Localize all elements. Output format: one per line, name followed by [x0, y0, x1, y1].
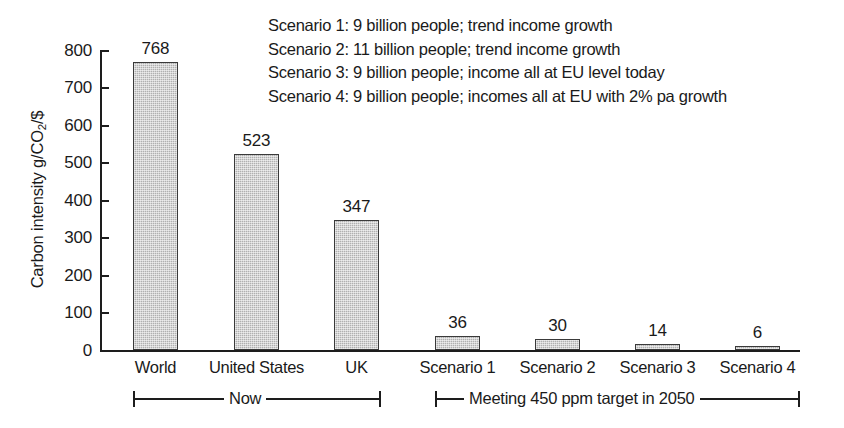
- group-label-now: Now: [224, 387, 266, 409]
- y-tick-label-500: 500: [48, 154, 92, 171]
- y-tick-label-400: 400: [48, 192, 92, 209]
- bar-uk: [334, 220, 379, 350]
- x-axis-line: [100, 350, 800, 352]
- category-label-scenario-2: Scenario 2: [502, 358, 613, 376]
- bar-scenario-2: [535, 339, 580, 350]
- y-tick-mark-700: [100, 87, 109, 89]
- y-tick-label-600: 600: [48, 117, 92, 134]
- bar-value-scenario-2: 30: [515, 317, 600, 334]
- y-tick-label-700: 700: [48, 79, 92, 96]
- bar-value-scenario-1: 36: [415, 314, 500, 331]
- legend-line-scenario-1: Scenario 1: 9 billion people; trend inco…: [268, 14, 828, 38]
- y-tick-label-200: 200: [48, 267, 92, 284]
- category-label-scenario-3: Scenario 3: [602, 358, 713, 376]
- legend-line-scenario-3: Scenario 3: 9 billion people; income all…: [268, 61, 828, 85]
- y-tick-label-100: 100: [48, 304, 92, 321]
- y-tick-mark-400: [100, 200, 109, 202]
- y-tick-mark-800: [100, 50, 109, 52]
- category-label-scenario-1: Scenario 1: [402, 358, 513, 376]
- y-tick-mark-200: [100, 275, 109, 277]
- y-tick-mark-100: [100, 312, 109, 314]
- bar-value-uk: 347: [314, 198, 399, 215]
- bar-scenario-3: [635, 344, 680, 350]
- group-bracket-target: Meeting 450 ppm target in 2050: [435, 387, 800, 411]
- category-label-scenario-4: Scenario 4: [702, 358, 813, 376]
- y-tick-label-300: 300: [48, 229, 92, 246]
- bar-scenario-4: [735, 346, 780, 350]
- bar-value-scenario-3: 14: [615, 322, 700, 339]
- bar-world: [133, 62, 178, 350]
- bar-value-scenario-4: 6: [715, 324, 800, 341]
- scenario-legend: Scenario 1: 9 billion people; trend inco…: [268, 14, 828, 108]
- legend-line-scenario-2: Scenario 2: 11 billion people; trend inc…: [268, 38, 828, 62]
- group-label-target: Meeting 450 ppm target in 2050: [464, 387, 700, 409]
- y-tick-label-0: 0: [48, 342, 92, 359]
- bar-value-world: 768: [113, 40, 198, 57]
- group-bracket-now: Now: [133, 387, 381, 411]
- category-label-world: World: [113, 358, 198, 376]
- category-label-united-states: United States: [196, 358, 317, 376]
- y-tick-mark-500: [100, 162, 109, 164]
- y-tick-mark-600: [100, 125, 109, 127]
- bar-scenario-1: [435, 336, 480, 350]
- y-tick-label-800: 800: [48, 42, 92, 59]
- category-label-uk: UK: [314, 358, 399, 376]
- bar-united-states: [234, 154, 279, 350]
- bar-chart: Carbon intensity g/CO2/$ 800 700 600 500…: [0, 0, 844, 428]
- bar-value-united-states: 523: [214, 132, 299, 149]
- y-tick-mark-300: [100, 237, 109, 239]
- legend-line-scenario-4: Scenario 4: 9 billion people; incomes al…: [268, 85, 828, 109]
